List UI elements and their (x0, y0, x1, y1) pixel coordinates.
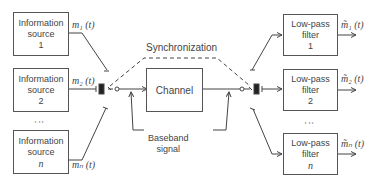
signal-label-m1: m₁ (t) (72, 19, 95, 30)
source-label: source (27, 29, 54, 40)
filter-index: 2 (308, 96, 313, 107)
filter-index: n (308, 160, 313, 171)
signal-label-mn: mₙ (t) (72, 159, 95, 170)
filter-label: filter (302, 149, 319, 160)
information-source-n: Information source n (13, 130, 69, 174)
filter-index: 1 (308, 41, 313, 52)
filter-label: Low-pass (291, 74, 330, 85)
low-pass-filter-2: Low-pass filter 2 (283, 69, 338, 111)
source-index: 1 (38, 40, 43, 51)
source-label: Information (18, 18, 63, 29)
source-label: source (27, 147, 54, 158)
channel-label: Channel (156, 85, 193, 96)
source-index: n (39, 158, 44, 169)
source-index: 2 (38, 96, 43, 107)
baseband-label-line2: signal (148, 144, 189, 155)
signal-label-m2: m₂ (t) (72, 75, 95, 86)
low-pass-filter-1: Low-pass filter 1 (283, 14, 338, 56)
source-label: Information (18, 74, 63, 85)
filter-label: filter (302, 30, 319, 41)
filter-label: Low-pass (291, 19, 330, 30)
output-label-m1: m̃₁ (t) (341, 19, 364, 30)
vertical-ellipsis: ⋮ (37, 117, 41, 127)
information-source-2: Information source 2 (13, 68, 69, 112)
filter-label: Low-pass (291, 138, 330, 149)
output-label-m2: m̃₂ (t) (341, 73, 364, 84)
baseband-label-line1: Baseband (148, 133, 189, 144)
low-pass-filter-n: Low-pass filter n (283, 133, 338, 175)
channel-block: Channel (146, 68, 203, 112)
source-label: source (27, 85, 54, 96)
information-source-1: Information source 1 (13, 12, 69, 56)
source-label: Information (18, 136, 63, 147)
synchronization-label: Synchronization (146, 42, 217, 53)
vertical-ellipsis: ⋮ (307, 118, 311, 128)
filter-label: filter (302, 85, 319, 96)
output-label-mn: m̃ₙ (t) (341, 138, 364, 149)
baseband-signal-label: Baseband signal (148, 133, 189, 155)
